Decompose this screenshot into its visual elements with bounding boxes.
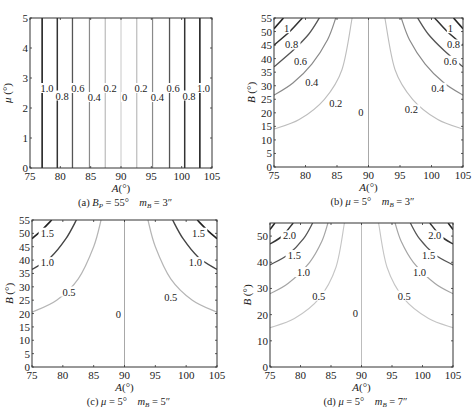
contour-label: 0 — [353, 308, 358, 319]
y-tick-label: 0 — [23, 162, 29, 174]
x-tick-label: 85 — [88, 369, 100, 381]
contour-label: 0.8 — [447, 39, 460, 50]
contour-lines — [32, 220, 217, 367]
panel-caption: (d) μ = 5° mB = 7″ — [324, 396, 408, 409]
y-tick-label: 30 — [257, 282, 269, 294]
x-tick-label: 95 — [395, 169, 407, 181]
x-tick-label: 80 — [300, 169, 312, 181]
y-tick-label: 55 — [19, 214, 31, 226]
contour-label: 0.2 — [405, 104, 418, 115]
contour-label: 2.0 — [283, 230, 296, 241]
y-axis-label: B (°) — [3, 283, 16, 305]
contour-label: 0.4 — [151, 92, 165, 103]
figure: 1.00.80.60.40.200.20.40.60.81.0758085909… — [0, 0, 476, 415]
contour-line — [454, 18, 463, 29]
y-tick-label: 25 — [261, 93, 273, 105]
y-tick-label: 10 — [261, 134, 273, 146]
x-tick-label: 85 — [332, 169, 344, 181]
y-tick-label: 5 — [25, 348, 31, 360]
y-axis-label: μ (°) — [1, 83, 14, 104]
contour-label: 0 — [122, 92, 127, 103]
y-tick-label: 30 — [261, 80, 273, 92]
x-tick-label: 95 — [387, 369, 399, 381]
y-tick-label: 50 — [261, 26, 273, 38]
contour-label: 1.5 — [41, 228, 54, 239]
y-tick-label: 25 — [19, 294, 31, 306]
contour-label: 0.6 — [71, 83, 84, 94]
contour-label: 1 — [284, 23, 289, 34]
contour-label: 0.5 — [398, 291, 411, 302]
y-tick-label: 40 — [19, 254, 31, 266]
chart-panel-b: 10.80.60.40.200.20.40.60.817580859095100… — [245, 12, 472, 209]
y-tick-label: 15 — [261, 120, 273, 132]
contour-label: 0.2 — [134, 83, 147, 94]
y-tick-label: 10 — [19, 334, 31, 346]
contour-label: 0.5 — [164, 292, 177, 303]
contour-label: 1.5 — [288, 250, 301, 261]
x-tick-label: 105 — [455, 169, 472, 181]
y-tick-label: 35 — [261, 66, 273, 78]
contour-label: 0.2 — [329, 98, 342, 109]
contour-label: 1.0 — [189, 257, 202, 268]
contour-label: 0.8 — [285, 39, 298, 50]
y-tick-label: 0 — [267, 161, 273, 173]
y-tick-label: 35 — [19, 267, 31, 279]
x-axis-label: A(°) — [358, 181, 378, 194]
x-tick-label: 80 — [295, 369, 307, 381]
x-tick-label: 105 — [445, 369, 462, 381]
x-axis-label: A(°) — [351, 381, 371, 394]
y-tick-label: 1 — [23, 132, 29, 144]
contour-label: 2.0 — [428, 230, 441, 241]
x-tick-label: 105 — [204, 170, 221, 182]
contour-label: 1.5 — [192, 228, 205, 239]
contour-label: 0 — [116, 309, 121, 320]
contour-label: 0.2 — [104, 83, 117, 94]
contour-line — [274, 18, 283, 29]
contour-label: 0.4 — [305, 77, 319, 88]
panel-caption: (c) μ = 5° mB = 5″ — [87, 396, 170, 409]
contour-label: 0.8 — [56, 91, 69, 102]
y-tick-label: 45 — [261, 39, 273, 51]
y-tick-label: 5 — [23, 12, 29, 24]
contour-label: 0.6 — [294, 56, 307, 67]
y-tick-label: 20 — [261, 107, 273, 119]
y-tick-label: 10 — [257, 335, 269, 347]
x-tick-label: 95 — [146, 170, 158, 182]
contour-label: 1.0 — [41, 257, 54, 268]
contour-label: 1.0 — [40, 83, 53, 94]
contour-lines — [270, 223, 453, 367]
y-tick-label: 50 — [19, 227, 31, 239]
x-tick-label: 105 — [209, 369, 226, 381]
contour-label: 1 — [448, 23, 453, 34]
contour-label: 0.6 — [444, 56, 457, 67]
x-tick-label: 100 — [414, 369, 431, 381]
y-tick-label: 5 — [267, 147, 273, 159]
y-tick-label: 50 — [257, 230, 269, 242]
y-tick-label: 0 — [263, 361, 269, 373]
x-tick-label: 80 — [57, 369, 69, 381]
contour-line — [448, 223, 453, 230]
y-tick-label: 45 — [19, 241, 31, 253]
contour-label: 1.0 — [297, 267, 310, 278]
contour-label: 0.5 — [312, 291, 325, 302]
x-axis-label: A(°) — [114, 381, 134, 394]
y-tick-label: 20 — [19, 308, 31, 320]
x-tick-label: 90 — [119, 369, 131, 381]
panel-caption: (b) μ = 5° mB = 3″ — [331, 196, 415, 209]
y-tick-label: 40 — [261, 53, 273, 65]
x-tick-label: 100 — [423, 169, 440, 181]
x-tick-label: 90 — [363, 169, 375, 181]
x-tick-label: 100 — [173, 170, 190, 182]
chart-panel-c: 1.51.00.500.51.01.5758085909510010505101… — [3, 214, 226, 409]
figure-canvas: 1.00.80.60.40.200.20.40.60.81.0758085909… — [0, 0, 476, 415]
chart-panel-d: 2.01.51.00.500.51.01.52.0758085909510010… — [241, 223, 462, 409]
chart-panel-a: 1.00.80.60.40.200.20.40.60.81.0758085909… — [1, 12, 221, 210]
x-axis-label: A(°) — [111, 182, 131, 195]
y-tick-label: 20 — [257, 309, 269, 321]
x-tick-label: 85 — [85, 170, 97, 182]
x-tick-label: 85 — [326, 369, 338, 381]
panel-caption: (a) BP = 55° mB = 3″ — [78, 197, 172, 210]
x-tick-label: 90 — [116, 170, 128, 182]
contour-line — [270, 223, 275, 230]
x-tick-label: 100 — [178, 369, 195, 381]
